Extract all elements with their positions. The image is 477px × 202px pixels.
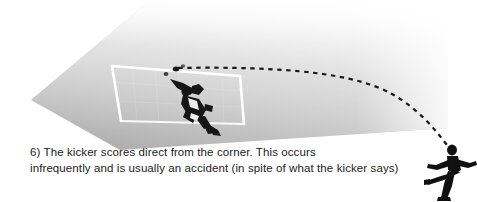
figure-container: 6) The kicker scores direct from the cor… [0, 0, 477, 202]
figure-caption: 6) The kicker scores direct from the cor… [30, 145, 460, 176]
